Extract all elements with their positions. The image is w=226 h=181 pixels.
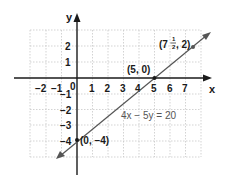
svg-text:1: 1 — [65, 57, 71, 68]
point-5-0 — [153, 76, 157, 80]
y-axis-label: y — [66, 11, 73, 23]
point-label-0-neg4: (0, −4) — [80, 135, 109, 146]
point-label-5-0: (5, 0) — [127, 64, 150, 75]
svg-text:2: 2 — [105, 83, 111, 94]
svg-text:3: 3 — [120, 83, 126, 94]
point-0-neg4 — [75, 138, 79, 142]
svg-text:(7: (7 — [159, 39, 168, 50]
line-arrow-upper-icon — [202, 32, 211, 40]
svg-text:−2: −2 — [35, 83, 47, 94]
y-tick-labels: 2 1 −1 −2 −3 −4 — [60, 41, 72, 147]
line-arrow-lower-icon — [56, 151, 65, 159]
point-7half-2 — [191, 45, 195, 49]
x-tick-labels: −2 −1 0 1 2 3 4 5 6 7 — [35, 81, 188, 94]
svg-text:5: 5 — [151, 83, 157, 94]
svg-text:−3: −3 — [60, 120, 72, 131]
point-label-7half-2: (7 1 2 , 2) — [159, 36, 190, 50]
y-axis-arrow-icon — [74, 13, 81, 22]
svg-text:6: 6 — [167, 83, 173, 94]
svg-text:2: 2 — [65, 41, 71, 52]
x-axis-label: x — [209, 83, 216, 95]
svg-text:−1: −1 — [60, 89, 72, 100]
svg-text:7: 7 — [182, 83, 188, 94]
x-axis-arrow-icon — [203, 75, 212, 82]
svg-text:1: 1 — [89, 83, 95, 94]
svg-text:−2: −2 — [60, 105, 72, 116]
svg-text:−4: −4 — [60, 136, 72, 147]
equation-label: 4x − 5y = 20 — [121, 110, 176, 121]
graph-canvas: y x −2 −1 0 1 2 3 4 5 6 7 2 1 −1 −2 −3 −… — [0, 0, 226, 181]
svg-text:, 2): , 2) — [176, 39, 190, 50]
